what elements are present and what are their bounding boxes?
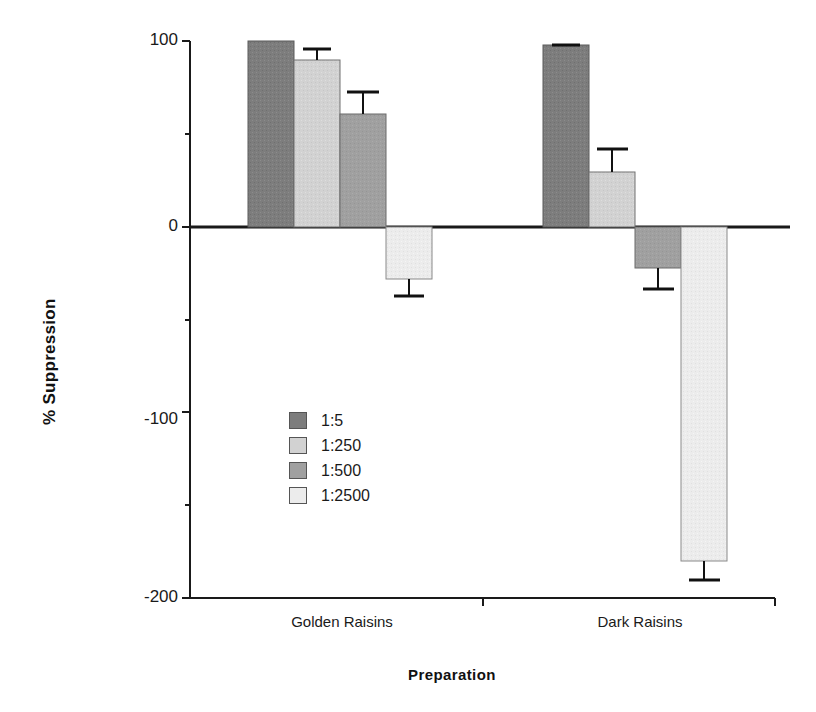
legend-item-1-500: 1:500 (289, 460, 370, 481)
legend-swatch-1-250 (289, 437, 307, 454)
legend-label-1-5: 1:5 (321, 412, 343, 430)
legend-item-1-250: 1:250 (289, 435, 370, 456)
legend-label-1-2500: 1:2500 (321, 487, 370, 505)
legend-label-1-250: 1:250 (321, 437, 361, 455)
chart-legend: 1:5 1:250 1:500 1:2500 (289, 410, 370, 510)
plot-area (0, 0, 816, 712)
legend-swatch-1-5 (289, 412, 307, 429)
bar-dark-1-500 (635, 227, 681, 268)
bar-golden-1-500 (340, 114, 386, 227)
chart-figure: % Suppression Preparation 100 0 -100 -20… (0, 0, 816, 712)
legend-swatch-1-2500 (289, 487, 307, 504)
bar-golden-1-5 (248, 41, 294, 227)
legend-label-1-500: 1:500 (321, 462, 361, 480)
bar-dark-1-2500 (681, 227, 727, 561)
legend-item-1-2500: 1:2500 (289, 485, 370, 506)
bar-dark-1-250 (589, 172, 635, 227)
bar-golden-1-250 (294, 60, 340, 227)
legend-swatch-1-500 (289, 462, 307, 479)
bar-golden-1-2500 (386, 227, 432, 279)
bar-dark-1-5 (543, 45, 589, 227)
legend-item-1-5: 1:5 (289, 410, 370, 431)
